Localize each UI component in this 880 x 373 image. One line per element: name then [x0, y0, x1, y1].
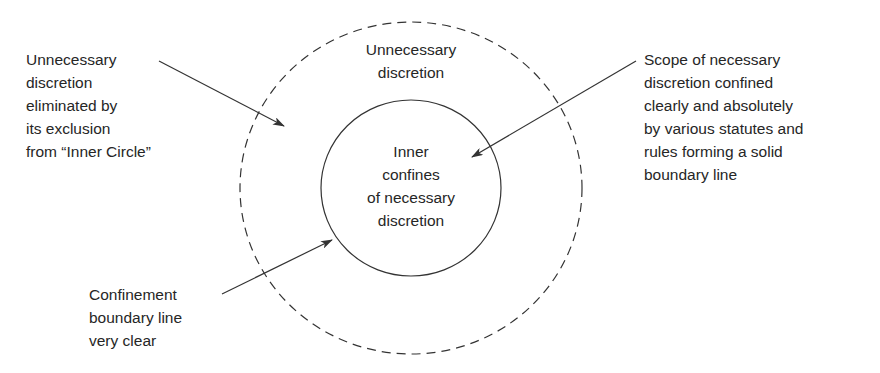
- inner-circle-label: Inner confines of necessary discretion: [341, 140, 481, 232]
- callout-top-right: Scope of necessary discretion confined c…: [644, 48, 803, 186]
- callout-top-left: Unnecessary discretion eliminated by its…: [26, 48, 151, 163]
- outer-circle-label: Unnecessary discretion: [340, 38, 482, 84]
- arrow-top-right: [472, 61, 636, 157]
- arrow-top-left: [159, 61, 284, 126]
- callout-bottom-left: Confinement boundary line very clear: [89, 283, 182, 352]
- arrow-bottom-left: [222, 240, 332, 294]
